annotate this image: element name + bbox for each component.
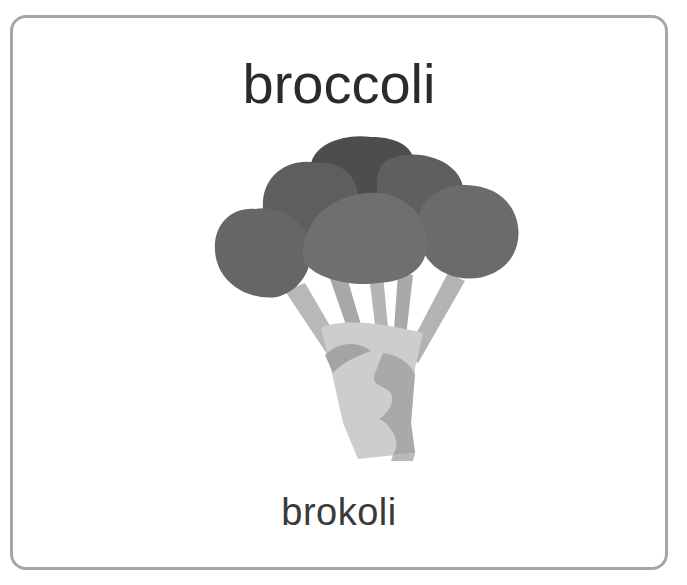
card-subtitle: brokoli	[13, 490, 665, 534]
flashcard: broccoli	[10, 15, 668, 570]
broccoli-florets	[215, 136, 519, 297]
broccoli-icon	[193, 123, 533, 463]
broccoli-stem	[285, 271, 465, 461]
card-title: broccoli	[13, 52, 665, 116]
